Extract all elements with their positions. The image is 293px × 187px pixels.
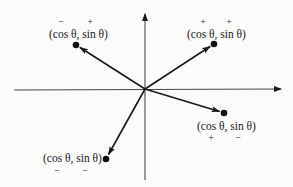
point-label-upper-left: (cos θ, sin θ) (49, 29, 108, 41)
cos-sign-upper-right: + (200, 17, 206, 27)
point-dot-upper-left (73, 42, 80, 49)
point-label-lower-left: (cos θ, sin θ) (43, 153, 102, 165)
point-dot-upper-right (211, 41, 218, 48)
cos-sign-lower-right: + (208, 133, 214, 143)
sin-sign-upper-right: + (226, 17, 232, 27)
cos-sign-lower-left: − (54, 166, 60, 176)
sin-sign-lower-right: − (235, 133, 241, 143)
point-dot-lower-right (221, 110, 228, 117)
vector-lower-left (109, 89, 146, 155)
sin-sign-lower-left: − (82, 166, 88, 176)
vector-upper-left (80, 48, 145, 90)
cos-sign-upper-left: − (58, 17, 64, 27)
sin-sign-upper-left: + (87, 17, 93, 27)
point-label-lower-right: (cos θ, sin θ) (197, 121, 256, 133)
vector-lower-right (145, 89, 220, 112)
point-dot-lower-left (103, 156, 110, 163)
vector-upper-right (145, 47, 210, 90)
point-label-upper-right: (cos θ, sin θ) (187, 29, 246, 41)
